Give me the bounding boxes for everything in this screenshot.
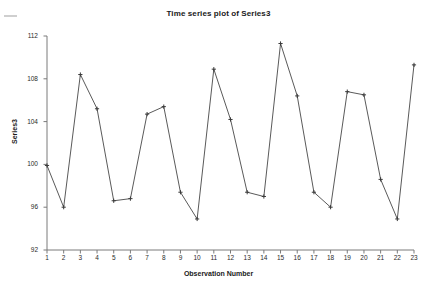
data-point-marker — [262, 194, 266, 198]
data-point-marker — [162, 105, 166, 109]
x-tick-label: 17 — [305, 254, 323, 261]
data-point-marker — [145, 112, 149, 116]
x-tick-label: 4 — [88, 254, 106, 261]
x-tick-label: 1 — [38, 254, 56, 261]
data-point-marker — [362, 93, 366, 97]
series-line — [47, 43, 414, 218]
x-tick-label: 6 — [121, 254, 139, 261]
data-point-marker — [345, 90, 349, 94]
x-tick-label: 12 — [222, 254, 240, 261]
x-tick-label: 7 — [138, 254, 156, 261]
x-tick-label: 9 — [171, 254, 189, 261]
series-line-group — [47, 43, 414, 218]
time-series-plot — [0, 0, 437, 289]
x-tick-label: 15 — [272, 254, 290, 261]
chart-container: Time series plot of Series3 Series3 Obse… — [0, 0, 437, 289]
x-tick-label: 16 — [288, 254, 306, 261]
y-tick-label: 92 — [12, 246, 38, 253]
x-tick-label: 14 — [255, 254, 273, 261]
data-point-marker — [412, 63, 416, 67]
y-tick-label: 96 — [12, 203, 38, 210]
x-tick-label: 5 — [105, 254, 123, 261]
x-tick-label: 8 — [155, 254, 173, 261]
data-point-marker — [395, 217, 399, 221]
data-point-marker — [128, 197, 132, 201]
x-tick-label: 21 — [372, 254, 390, 261]
x-tick-label: 13 — [238, 254, 256, 261]
data-point-marker — [245, 190, 249, 194]
x-tick-label: 20 — [355, 254, 373, 261]
data-point-marker — [212, 67, 216, 71]
y-tick-label: 104 — [12, 118, 38, 125]
data-point-marker — [295, 94, 299, 98]
data-point-marker — [78, 72, 82, 76]
x-tick-label: 2 — [55, 254, 73, 261]
x-tick-label: 11 — [205, 254, 223, 261]
x-tick-label: 22 — [388, 254, 406, 261]
data-point-marker — [95, 107, 99, 111]
data-point-marker — [278, 41, 282, 45]
data-point-marker — [379, 177, 383, 181]
y-tick-label: 112 — [12, 32, 38, 39]
x-tick-label: 19 — [338, 254, 356, 261]
y-tick-label: 100 — [12, 160, 38, 167]
x-tick-label: 18 — [322, 254, 340, 261]
x-tick-label: 23 — [405, 254, 423, 261]
axis-group — [44, 36, 415, 254]
data-point-marker — [228, 117, 232, 121]
series-marker-group — [45, 41, 416, 221]
x-tick-label: 10 — [188, 254, 206, 261]
data-point-marker — [62, 205, 66, 209]
y-tick-label: 108 — [12, 75, 38, 82]
data-point-marker — [112, 199, 116, 203]
x-tick-label: 3 — [71, 254, 89, 261]
